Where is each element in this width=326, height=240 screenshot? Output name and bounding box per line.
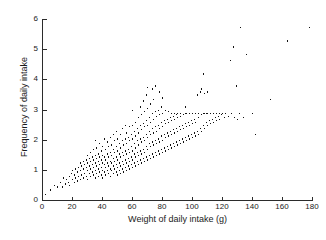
data-point (135, 165, 136, 166)
data-point (77, 171, 78, 172)
data-point (210, 113, 211, 114)
data-point (158, 125, 159, 126)
data-point (54, 185, 55, 186)
data-point (87, 179, 88, 180)
data-point (105, 174, 106, 175)
data-point (111, 170, 112, 171)
data-point (153, 156, 154, 157)
data-point (177, 144, 178, 145)
data-point (129, 152, 130, 153)
data-point (105, 159, 106, 160)
data-point (125, 150, 126, 151)
data-point (144, 152, 145, 153)
data-point (162, 97, 163, 98)
data-point (138, 117, 139, 118)
data-point (78, 167, 79, 168)
data-point (93, 167, 94, 168)
data-point (60, 182, 61, 183)
data-point (194, 119, 195, 120)
data-point (123, 164, 124, 165)
data-point (159, 141, 160, 142)
data-point (219, 119, 220, 120)
data-point (123, 155, 124, 156)
data-point (101, 174, 102, 175)
data-point (173, 129, 174, 130)
data-point (189, 125, 190, 126)
data-point (104, 138, 105, 139)
data-point (255, 134, 256, 135)
data-point (156, 131, 157, 132)
data-point (153, 132, 154, 133)
data-point (147, 108, 148, 109)
data-point (159, 114, 160, 115)
data-point (65, 183, 66, 184)
data-point (195, 122, 196, 123)
data-point (188, 135, 189, 136)
data-point (143, 100, 144, 101)
data-point (93, 149, 94, 150)
data-point (111, 155, 112, 156)
data-point (119, 153, 120, 154)
data-point (191, 120, 192, 121)
data-point (198, 113, 199, 114)
data-point (201, 88, 202, 89)
data-point (155, 85, 156, 86)
data-point (90, 152, 91, 153)
data-point (116, 156, 117, 157)
data-point (174, 132, 175, 133)
y-tick-label-4: 4 (24, 75, 38, 83)
data-point (72, 170, 73, 171)
data-point (113, 165, 114, 166)
data-point (189, 138, 190, 139)
data-point (146, 146, 147, 147)
data-point (135, 135, 136, 136)
data-point (140, 106, 141, 107)
data-point (309, 27, 310, 28)
data-point (143, 149, 144, 150)
data-point (108, 165, 109, 166)
data-point (237, 119, 238, 120)
y-tick-label-3: 3 (24, 106, 38, 114)
data-point (165, 110, 166, 111)
data-point (147, 149, 148, 150)
data-point (92, 164, 93, 165)
data-point (140, 125, 141, 126)
data-point (182, 125, 183, 126)
data-point (162, 113, 163, 114)
data-point (63, 177, 64, 178)
data-point (156, 116, 157, 117)
data-point (164, 134, 165, 135)
data-point (98, 168, 99, 169)
data-point (95, 170, 96, 171)
data-point (83, 161, 84, 162)
data-point (135, 122, 136, 123)
data-point (95, 177, 96, 178)
data-point (167, 132, 168, 133)
data-point (180, 113, 181, 114)
data-point (95, 155, 96, 156)
data-point (57, 186, 58, 187)
data-point (186, 113, 187, 114)
data-point (137, 140, 138, 141)
data-point (137, 128, 138, 129)
data-point (125, 159, 126, 160)
data-point (125, 138, 126, 139)
y-tick-label-2: 2 (24, 136, 38, 144)
data-point (108, 173, 109, 174)
data-point (71, 173, 72, 174)
data-point (215, 117, 216, 118)
x-axis-line (42, 200, 313, 201)
data-point (270, 99, 271, 100)
data-point (144, 111, 145, 112)
data-point (150, 134, 151, 135)
data-point (50, 189, 51, 190)
data-point (74, 182, 75, 183)
data-point (129, 126, 130, 127)
data-point (131, 164, 132, 165)
data-point (99, 164, 100, 165)
data-point (99, 143, 100, 144)
data-point (231, 113, 232, 114)
data-point (212, 119, 213, 120)
data-point (152, 153, 153, 154)
data-point (173, 143, 174, 144)
